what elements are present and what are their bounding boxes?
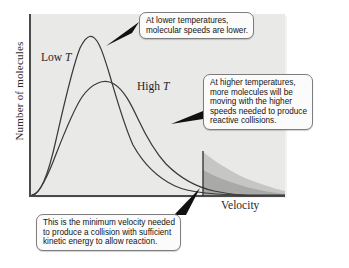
callout-high-temperature-line-3: moving with the higher [210,97,307,107]
curve-label-high-t-prefix: High [137,80,163,92]
x-axis-label: Velocity [221,199,259,211]
figure-container: Number of molecules Velocity Low T High … [0,0,349,268]
callout-minimum-velocity-line-2: to produce a collision with sufficient [43,228,175,238]
callout-minimum-velocity-line-1: This is the minimum velocity needed [43,218,175,228]
callout-low-temperature: At lower temperatures, molecular speeds … [139,12,254,39]
curve-label-high-t-symbol: T [163,80,169,92]
y-axis-label: Number of molecules [13,26,25,156]
callout-low-temperature-line-2: molecular speeds are lower. [146,26,248,36]
callout-high-temperature-line-1: At higher temperatures, [210,78,307,88]
curve-label-low-t-symbol: T [65,51,71,63]
curve-label-high-t: High T [137,80,169,92]
curve-label-low-t: Low T [41,51,71,63]
callout-high-temperature-line-5: reactive collisions. [210,116,307,126]
curve-label-low-t-prefix: Low [41,51,65,63]
callout-tail-minimum-velocity [174,188,200,215]
callout-low-temperature-line-1: At lower temperatures, [146,16,248,26]
callout-tail-low-temp [106,22,139,46]
callout-minimum-velocity: This is the minimum velocity needed to p… [36,214,181,251]
callout-minimum-velocity-line-3: kinetic energy to allow reaction. [43,237,175,247]
callout-high-temperature: At higher temperatures, more molecules w… [203,74,313,130]
callout-high-temperature-line-2: more molecules will be [210,88,307,98]
callout-high-temperature-line-4: speeds needed to produce [210,107,307,117]
callout-tail-high-temp [171,111,203,124]
